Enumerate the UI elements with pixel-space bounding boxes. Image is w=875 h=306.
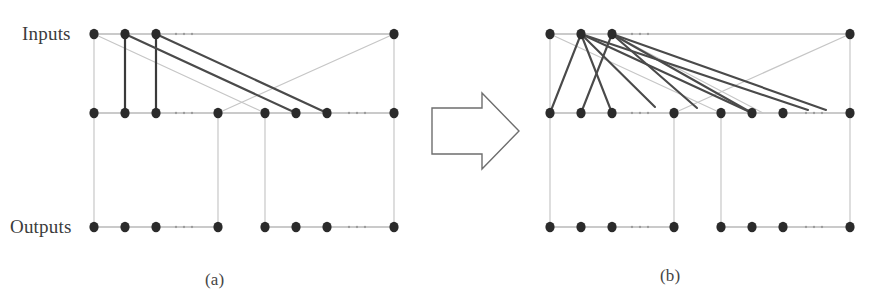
caption-panel-a: (a)	[205, 270, 224, 290]
output-node[interactable]	[607, 222, 616, 232]
ellipsis-dot	[639, 33, 641, 35]
middle-node[interactable]	[322, 108, 331, 118]
ellipsis-dot	[348, 226, 350, 228]
middle-node[interactable]	[389, 108, 398, 118]
ellipsis-dot	[647, 33, 649, 35]
input-node[interactable]	[845, 29, 854, 39]
output-node[interactable]	[322, 222, 331, 232]
panel-a-before-diagram	[89, 29, 398, 232]
crossbar-edge-dark	[612, 34, 697, 108]
transformation-arrow	[432, 93, 519, 169]
output-node[interactable]	[213, 222, 222, 232]
middle-node[interactable]	[151, 108, 160, 118]
ellipsis-dot	[191, 112, 193, 114]
ellipsis-dot	[639, 226, 641, 228]
input-node[interactable]	[607, 29, 616, 39]
ellipsis-dot	[183, 33, 185, 35]
input-node[interactable]	[576, 29, 585, 39]
ellipsis-dot	[183, 226, 185, 228]
ellipsis-dot	[631, 33, 633, 35]
ellipsis-dot	[364, 112, 366, 114]
ellipsis-dot	[647, 226, 649, 228]
output-node[interactable]	[291, 222, 300, 232]
middle-node[interactable]	[576, 108, 585, 118]
middle-node[interactable]	[607, 108, 616, 118]
ellipsis-dot	[356, 226, 358, 228]
figure-root: Inputs Outputs (a) (b)	[0, 0, 875, 306]
ellipsis-dot	[175, 33, 177, 35]
ellipsis-dot	[348, 112, 350, 114]
input-node[interactable]	[389, 29, 398, 39]
ellipsis-dot	[191, 33, 193, 35]
ellipsis-dot	[631, 226, 633, 228]
input-node[interactable]	[545, 29, 554, 39]
ellipsis-dot	[805, 112, 807, 114]
output-node[interactable]	[669, 222, 678, 232]
middle-node[interactable]	[845, 108, 854, 118]
crossbar-edge-dark	[550, 34, 581, 113]
crossbar-edge-dark	[581, 34, 808, 110]
panel-b-after-diagram	[545, 29, 854, 232]
input-node[interactable]	[151, 29, 160, 39]
output-node[interactable]	[120, 222, 129, 232]
ellipsis-dot	[183, 112, 185, 114]
middle-node[interactable]	[89, 108, 98, 118]
ellipsis-dot	[813, 112, 815, 114]
output-node[interactable]	[747, 222, 756, 232]
ellipsis-dot	[191, 226, 193, 228]
ellipsis-dot	[821, 112, 823, 114]
output-node[interactable]	[778, 222, 787, 232]
crossbar-edge-dark	[125, 34, 296, 113]
ellipsis-dot	[813, 226, 815, 228]
ellipsis-dot	[647, 112, 649, 114]
transformation-arrow-group	[432, 93, 519, 169]
output-node[interactable]	[716, 222, 725, 232]
output-node[interactable]	[545, 222, 554, 232]
ellipsis-dot	[364, 226, 366, 228]
ellipsis-dot	[821, 226, 823, 228]
ellipsis-dot	[175, 226, 177, 228]
middle-node[interactable]	[669, 108, 678, 118]
input-node[interactable]	[89, 29, 98, 39]
middle-node[interactable]	[778, 108, 787, 118]
network-diagram-canvas	[0, 0, 875, 306]
output-node[interactable]	[845, 222, 854, 232]
output-node[interactable]	[576, 222, 585, 232]
middle-node[interactable]	[291, 108, 300, 118]
ellipsis-dot	[805, 226, 807, 228]
ellipsis-dot	[175, 112, 177, 114]
middle-node[interactable]	[716, 108, 725, 118]
caption-panel-b: (b)	[660, 266, 680, 286]
crossbar-edge-dark	[156, 34, 327, 113]
ellipsis-dot	[356, 112, 358, 114]
ellipsis-dot	[631, 112, 633, 114]
output-node[interactable]	[89, 222, 98, 232]
output-node[interactable]	[389, 222, 398, 232]
output-node[interactable]	[151, 222, 160, 232]
output-node[interactable]	[260, 222, 269, 232]
outputs-row-label: Outputs	[10, 216, 72, 238]
crossbar-edge-dark	[612, 34, 752, 113]
middle-node[interactable]	[213, 108, 222, 118]
middle-node[interactable]	[747, 108, 756, 118]
input-node[interactable]	[120, 29, 129, 39]
middle-node[interactable]	[545, 108, 554, 118]
middle-node[interactable]	[120, 108, 129, 118]
ellipsis-dot	[639, 112, 641, 114]
inputs-row-label: Inputs	[22, 23, 71, 45]
crossbar-edge-light	[218, 34, 394, 113]
middle-node[interactable]	[260, 108, 269, 118]
